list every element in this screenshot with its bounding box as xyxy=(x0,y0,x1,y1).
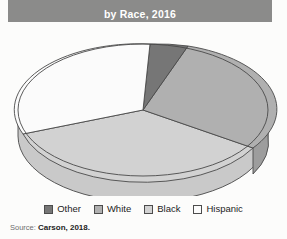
legend-item-other[interactable]: Other xyxy=(44,204,81,214)
legend-swatch-other xyxy=(44,205,53,214)
legend-label-hispanic: Hispanic xyxy=(206,204,242,214)
legend-label-black: Black xyxy=(157,204,180,214)
source-label: Source: xyxy=(10,223,36,232)
chart-title-line-2: by Race, 2016 xyxy=(104,8,176,20)
chart-legend: Other White Black Hispanic xyxy=(0,198,287,220)
legend-label-other: Other xyxy=(57,204,81,214)
legend-swatch-black xyxy=(144,205,153,214)
chart-title-band: Share of U.S. Population by Race, 2016 xyxy=(8,0,272,22)
legend-swatch-hispanic xyxy=(193,205,202,214)
source-value: Carson, 2018. xyxy=(38,223,90,232)
legend-item-hispanic[interactable]: Hispanic xyxy=(193,204,242,214)
pie-chart-svg xyxy=(0,24,287,196)
legend-item-black[interactable]: Black xyxy=(144,204,180,214)
legend-swatch-white xyxy=(94,205,103,214)
legend-item-white[interactable]: White xyxy=(94,204,131,214)
legend-label-white: White xyxy=(107,204,131,214)
pie-chart xyxy=(0,24,287,196)
figure-source: Source: Carson, 2018. xyxy=(10,223,90,232)
